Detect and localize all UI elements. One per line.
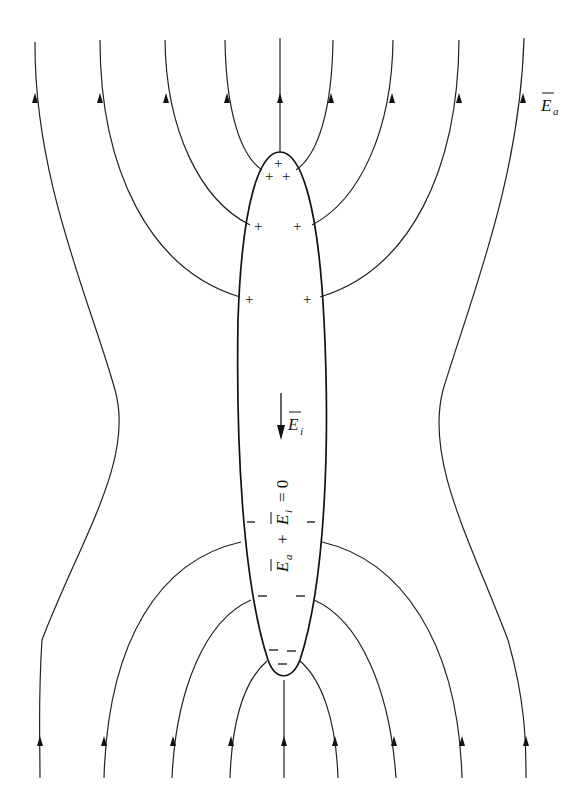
- conductor-body: [238, 152, 327, 676]
- svg-text:+: +: [293, 218, 301, 234]
- field-line-bottom-r2: [314, 600, 396, 778]
- field-line-top-r3: [320, 40, 459, 297]
- svg-text:E: E: [287, 415, 299, 434]
- field-line-top-l3: [100, 40, 240, 297]
- svg-text:E: E: [540, 96, 552, 115]
- field-line-top-l1: [225, 40, 262, 170]
- svg-text:E: E: [273, 561, 292, 573]
- svg-text:+: +: [282, 168, 290, 184]
- svg-text:+: +: [245, 291, 253, 307]
- svg-text:+: +: [254, 218, 262, 234]
- svg-text:+: +: [303, 291, 311, 307]
- arrowheads-top: [32, 93, 526, 103]
- field-line-bottom-l1: [230, 661, 267, 778]
- svg-text:i: i: [300, 425, 303, 437]
- applied-field-label: E a: [540, 93, 559, 117]
- field-line-bottom-r1: [300, 661, 338, 778]
- svg-text:a: a: [553, 105, 559, 117]
- field-diagram: + + + + + + + E i E a E a + E: [0, 0, 588, 799]
- svg-text:E: E: [273, 514, 292, 526]
- field-line-right-outer: [439, 38, 526, 778]
- positive-charges: + + + + + + +: [245, 155, 311, 307]
- field-line-top-r2: [312, 40, 393, 225]
- field-line-left-outer: [35, 42, 119, 778]
- svg-text:i: i: [282, 510, 294, 513]
- induced-field-label: E i: [287, 412, 303, 437]
- svg-text:+: +: [265, 168, 273, 184]
- svg-text:+: +: [273, 534, 292, 544]
- arrowheads-bottom: [37, 736, 529, 746]
- field-line-bottom-l2: [172, 600, 251, 778]
- field-line-top-r1: [296, 40, 333, 170]
- equilibrium-equation: E a + E i = 0: [271, 480, 294, 573]
- induced-field-arrow: [277, 393, 285, 440]
- svg-text:a: a: [282, 554, 294, 560]
- svg-text:= 0: = 0: [273, 480, 292, 502]
